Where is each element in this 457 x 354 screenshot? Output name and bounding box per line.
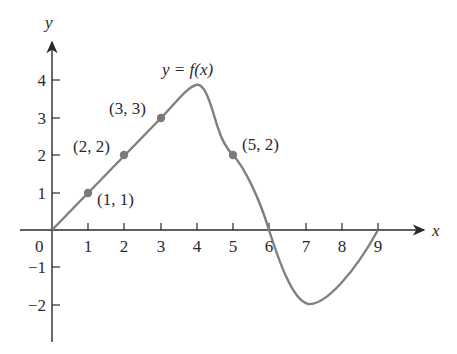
y-axis-label: y [43,13,53,32]
x-tick-labels: 1 2 3 4 5 6 7 8 9 [84,237,383,256]
svg-text:3: 3 [38,109,47,128]
svg-text:6: 6 [265,237,274,256]
y-tick-labels: 1 2 3 4 −1 −2 [28,71,47,315]
point-3-3 [157,114,165,122]
point-label-1-1: (1, 1) [97,190,134,209]
svg-text:−2: −2 [28,296,46,315]
svg-text:2: 2 [120,237,129,256]
origin-label: 0 [35,237,44,256]
point-label-3-3: (3, 3) [109,99,146,118]
svg-text:2: 2 [38,146,47,165]
svg-text:3: 3 [157,237,166,256]
function-graph: y x 0 1 2 3 4 5 6 7 8 9 1 2 3 4 −1 −2 y … [0,0,457,354]
svg-text:1: 1 [38,184,47,203]
svg-text:4: 4 [193,237,202,256]
x-ticks [88,223,378,230]
point-2-2 [120,151,128,159]
svg-text:8: 8 [338,237,347,256]
svg-text:4: 4 [38,71,47,90]
svg-text:−1: −1 [28,258,46,277]
curve-label: y = f(x) [160,60,213,79]
point-1-1 [84,189,92,197]
svg-text:5: 5 [229,237,238,256]
x-axis-label: x [431,221,440,240]
point-5-2 [229,151,237,159]
svg-text:9: 9 [374,237,383,256]
svg-text:7: 7 [302,237,311,256]
point-label-5-2: (5, 2) [242,135,279,154]
point-label-2-2: (2, 2) [73,137,110,156]
svg-text:1: 1 [84,237,93,256]
y-ticks [52,80,60,305]
